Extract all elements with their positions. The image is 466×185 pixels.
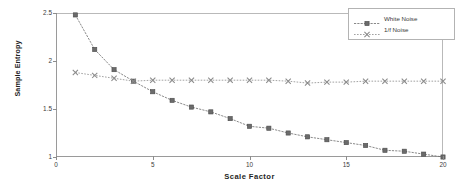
data-point-marker [325,138,329,142]
legend-label: 1/f Noise [384,26,408,33]
x-tick-label: 20 [429,161,457,168]
legend-item-white-noise[interactable]: White Noise [353,13,417,23]
y-tick-mark [53,61,57,62]
data-point-marker [344,141,348,145]
data-point-marker [421,79,426,84]
data-point-marker [209,110,213,114]
data-point-marker [364,143,368,147]
data-point-marker [112,68,116,72]
data-point-marker [228,117,232,121]
chart-legend: White Noise 1/f Noise [348,8,455,40]
y-tick-label: 1.5 [26,105,52,112]
x-tick-mark [346,156,347,160]
x-tick-label: 10 [236,161,264,168]
data-point-marker [170,98,174,102]
x-tick-mark [443,156,444,160]
y-axis-tick-labels: 11.522.5 [26,0,52,185]
x-tick-mark [153,156,154,160]
data-point-marker [151,90,155,94]
data-point-marker [93,47,97,51]
x-tick-mark [56,156,57,160]
series-1f-noise [73,70,446,86]
data-point-marker [247,124,251,128]
x-axis-tick-labels: 05101520 [0,161,466,175]
y-tick-mark [53,13,57,14]
data-point-marker [189,105,193,109]
y-tick-label: 2.5 [26,9,52,16]
y-tick-label: 1 [26,153,52,160]
data-point-marker [364,31,369,36]
data-point-marker [422,152,426,156]
legend-key-square-icon [353,14,381,23]
y-tick-label: 2 [26,57,52,64]
x-tick-label: 5 [139,161,167,168]
x-tick-label: 15 [332,161,360,168]
chart-figure: Sample Entropy Scale Factor 11.522.5 051… [0,0,466,185]
y-tick-mark [53,109,57,110]
data-point-marker [305,135,309,139]
x-tick-mark [250,156,251,160]
legend-label: White Noise [384,15,417,22]
data-point-marker [73,13,77,17]
legend-item-1f-noise[interactable]: 1/f Noise [353,24,408,34]
data-point-marker [208,78,213,83]
x-tick-label: 0 [42,161,70,168]
data-point-marker [402,149,406,153]
series-line [75,73,443,84]
legend-key-x-icon [353,25,381,34]
data-point-marker [247,78,252,83]
data-point-marker [73,70,78,75]
y-axis-title: Sample Entropy [13,21,22,117]
data-point-marker [383,148,387,152]
data-point-marker [286,79,291,84]
data-point-marker [286,131,290,135]
data-point-marker [267,126,271,130]
